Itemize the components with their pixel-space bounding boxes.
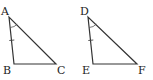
vertex-label-e: E	[82, 64, 90, 77]
vertex-label-b: B	[3, 64, 11, 77]
triangle-def-outline	[88, 17, 137, 64]
side-ab-tick	[9, 40, 14, 41]
vertex-label-f: F	[138, 64, 146, 77]
triangle-abc: A B C	[0, 5, 65, 77]
triangle-abc-outline	[9, 17, 56, 64]
vertex-label-a: A	[0, 5, 10, 18]
triangles-diagram: A B C D E F	[0, 0, 153, 80]
side-de-tick	[88, 40, 93, 41]
angle-a-arc	[10, 24, 17, 27]
triangle-def: D E F	[80, 5, 146, 77]
vertex-label-c: C	[57, 64, 65, 77]
vertex-label-d: D	[80, 5, 89, 18]
angle-d-arc	[89, 24, 96, 27]
